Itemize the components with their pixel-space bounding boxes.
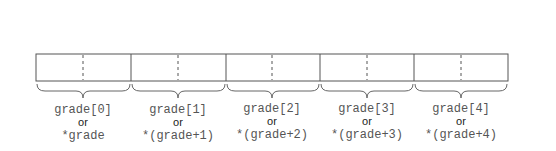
subscript-label-2: grade[2] [243,102,301,116]
braces [37,84,507,98]
or-label-1: or [173,116,183,128]
pointer-label-0: *grade [61,129,104,143]
subscript-label-4: grade[4] [432,102,490,116]
brace-2 [227,84,319,98]
byte-dividers [83,55,461,80]
pointer-label-3: *(grade+3) [331,128,403,142]
or-label-0: or [78,116,88,128]
subscript-label-3: grade[3] [338,102,396,116]
pointer-label-1: *(grade+1) [142,129,214,143]
brace-0 [37,84,130,98]
pointer-label-4: *(grade+4) [425,128,497,142]
array-memory-diagram: grade[0] or *grade grade[1] or *(grade+1… [0,0,556,151]
brace-3 [321,84,413,98]
brace-1 [132,84,225,98]
or-label-2: or [267,115,277,127]
or-label-3: or [362,115,372,127]
subscript-label-1: grade[1] [149,103,207,117]
brace-4 [415,84,507,98]
pointer-label-2: *(grade+2) [236,128,308,142]
subscript-label-0: grade[0] [54,103,112,117]
or-label-4: or [456,115,466,127]
